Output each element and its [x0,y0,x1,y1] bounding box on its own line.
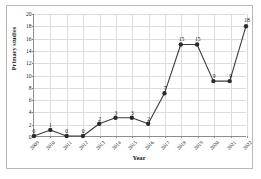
x-tick-mark [165,136,166,138]
data-point-label: 9 [213,73,216,79]
x-tick-mark [247,136,248,138]
x-axis-label: Year [30,154,248,161]
data-point-label: 3 [131,110,134,116]
data-point-label: 3 [115,110,118,116]
y-tick-label: 10 [26,73,32,79]
x-tick-mark [181,136,182,138]
data-point-marker [195,42,199,46]
y-tick-label: 14 [26,48,32,54]
data-point-marker [244,24,248,28]
data-point-label: 15 [195,36,201,42]
data-point-label: 2 [147,116,150,122]
chart-figure: Primary studies Year 02468101214161820 2… [0,0,261,179]
y-tick-label: 20 [26,11,32,17]
data-point-label: 0 [65,128,68,134]
gridline-vertical [247,14,248,136]
data-point-label: 0 [82,128,85,134]
y-axis-label: Primary studies [10,14,17,84]
data-point-label: 18 [244,17,250,23]
data-point-marker [97,122,101,126]
y-tick-label: 18 [26,23,32,29]
x-tick-mark [132,136,133,138]
data-point-marker [211,79,215,83]
plot-area: 02468101214161820 2009201020112012201320… [33,14,246,137]
x-tick-mark [231,136,232,138]
y-tick-label: 16 [26,36,32,42]
data-point-label: 9 [229,73,232,79]
data-point-label: 0 [33,128,36,134]
data-point-label: 2 [98,116,101,122]
y-tick-label: 12 [26,60,32,66]
data-point-marker [162,91,166,95]
data-point-marker [113,116,117,120]
x-tick-mark [50,136,51,138]
data-point-marker [81,134,85,138]
data-point-marker [48,128,52,132]
data-point-marker [228,79,232,83]
x-tick-mark [214,136,215,138]
x-tick-mark [149,136,150,138]
data-point-marker [179,42,183,46]
data-point-label: 15 [179,36,185,42]
data-point-marker [32,134,36,138]
x-tick-mark [198,136,199,138]
data-point-label: 1 [49,122,52,128]
data-point-marker [64,134,68,138]
x-tick-mark [100,136,101,138]
data-point-label: 7 [164,85,167,91]
data-point-marker [130,116,134,120]
data-point-marker [146,122,150,126]
x-tick-mark [116,136,117,138]
